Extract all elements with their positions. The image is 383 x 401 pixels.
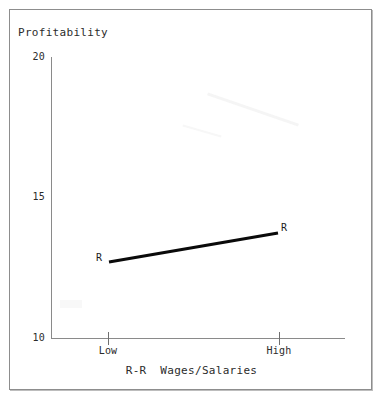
point-label-low: R bbox=[96, 252, 102, 263]
x-axis-title: R-R Wages/Salaries bbox=[0, 364, 383, 377]
chart-screenshot: Profitability 20 15 10 Low High R R R-R … bbox=[0, 0, 383, 401]
series-line-r bbox=[109, 233, 278, 262]
plot-area bbox=[0, 0, 383, 401]
point-label-high: R bbox=[281, 222, 287, 233]
